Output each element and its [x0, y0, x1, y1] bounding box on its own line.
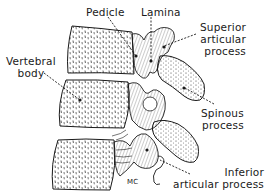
label-lamina: Lamina	[141, 6, 181, 18]
artist-signature: MC	[127, 176, 138, 188]
vertebral-body-top	[68, 26, 135, 74]
vertebral-body-bottom	[52, 139, 115, 190]
label-vertebral-body: Vertebral body	[6, 55, 56, 79]
label-inferior-articular-process: Inferior articular process	[173, 166, 264, 190]
vertebrae-diagram: Pedicle Lamina Superior articular proces…	[0, 0, 265, 195]
vertebral-body-middle	[59, 80, 129, 128]
spinous-process-top	[157, 56, 204, 101]
label-pedicle: Pedicle	[86, 6, 125, 18]
label-spinous-process: Spinous process	[201, 107, 244, 131]
label-superior-articular-process: Superior articular process	[200, 21, 246, 57]
posterior-arch-bottom	[114, 134, 164, 185]
